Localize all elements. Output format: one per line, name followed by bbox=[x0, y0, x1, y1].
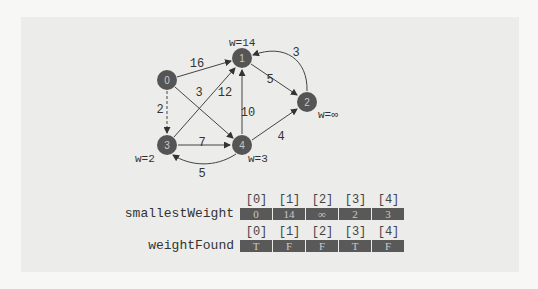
svg-text:2: 2 bbox=[304, 97, 310, 108]
weight-found-indices: [0] [1] [2] [3] [4] bbox=[240, 225, 405, 239]
node-3-weight: w=2 bbox=[135, 153, 155, 165]
weight-3-1: 12 bbox=[218, 86, 232, 100]
weight-0-3: 2 bbox=[156, 103, 163, 117]
weight-found-array: T F F T F bbox=[240, 240, 405, 252]
node-3: 3 bbox=[157, 135, 177, 155]
array-cell: 14 bbox=[273, 208, 305, 220]
index-label: [2] bbox=[306, 225, 339, 239]
node-1-weight: w=14 bbox=[229, 37, 256, 49]
node-1: 1 bbox=[232, 48, 252, 68]
svg-text:0: 0 bbox=[164, 75, 170, 86]
weight-0-4: 3 bbox=[195, 86, 202, 100]
svg-text:4: 4 bbox=[239, 140, 245, 151]
weight-4-2: 4 bbox=[277, 130, 284, 144]
array-cell: F bbox=[372, 240, 404, 252]
array-cell: ∞ bbox=[306, 208, 338, 220]
weight-3-4: 7 bbox=[198, 136, 205, 150]
index-label: [3] bbox=[339, 193, 372, 207]
smallest-weight-array: 0 14 ∞ 2 3 bbox=[240, 208, 405, 220]
array-cell: F bbox=[273, 240, 305, 252]
array-cell: 0 bbox=[240, 208, 272, 220]
array-cell: T bbox=[240, 240, 272, 252]
array-cell: 3 bbox=[372, 208, 404, 220]
index-label: [2] bbox=[306, 193, 339, 207]
weight-0-1: 16 bbox=[190, 57, 204, 71]
array-cell: 2 bbox=[339, 208, 371, 220]
array-cell: T bbox=[339, 240, 371, 252]
index-label: [3] bbox=[339, 225, 372, 239]
weight-4-1: 10 bbox=[241, 106, 255, 120]
index-label: [1] bbox=[273, 193, 306, 207]
weight-4-3: 5 bbox=[198, 167, 205, 181]
array-cell: F bbox=[306, 240, 338, 252]
smallest-weight-indices: [0] [1] [2] [3] [4] bbox=[240, 193, 405, 207]
node-4: 4 bbox=[232, 135, 252, 155]
svg-text:1: 1 bbox=[239, 53, 245, 64]
index-label: [4] bbox=[372, 193, 405, 207]
index-label: [4] bbox=[372, 225, 405, 239]
edge-4-2 bbox=[252, 109, 297, 140]
weight-1-2: 5 bbox=[266, 73, 273, 87]
smallest-weight-label: smallestWeight bbox=[124, 206, 234, 221]
node-2-weight: w=∞ bbox=[318, 109, 338, 121]
node-4-weight: w=3 bbox=[248, 153, 268, 165]
weight-2-1: 3 bbox=[292, 46, 299, 60]
index-label: [0] bbox=[240, 225, 273, 239]
edge-1-2 bbox=[251, 64, 297, 95]
index-label: [0] bbox=[240, 193, 273, 207]
node-0: 0 bbox=[157, 70, 177, 90]
index-label: [1] bbox=[273, 225, 306, 239]
svg-text:3: 3 bbox=[164, 140, 170, 151]
edge-4-3 bbox=[173, 154, 236, 164]
weight-found-label: weightFound bbox=[124, 238, 234, 253]
edge-3-1 bbox=[174, 68, 235, 137]
node-2: 2 bbox=[297, 92, 317, 112]
